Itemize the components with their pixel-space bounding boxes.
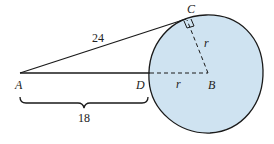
label-d: D — [135, 78, 145, 92]
label-c: C — [187, 2, 196, 16]
label-ad-length: 18 — [78, 111, 90, 125]
label-radius-bc: r — [204, 36, 209, 50]
label-radius-db: r — [176, 77, 181, 91]
label-a: A — [14, 78, 23, 92]
label-ac-length: 24 — [92, 31, 104, 45]
tangent-circle-diagram: A D B C r r 24 18 — [0, 0, 274, 144]
circle-b — [149, 15, 263, 133]
brace-ad — [20, 97, 148, 108]
label-b: B — [208, 78, 216, 92]
diagram-svg: A D B C r r 24 18 — [0, 0, 274, 144]
